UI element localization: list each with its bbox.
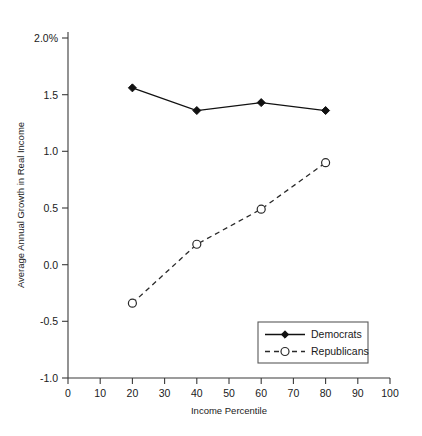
x-tick-label: 80 — [320, 387, 332, 399]
legend-marker-open-circle — [281, 348, 289, 356]
x-tick-label: 70 — [288, 387, 300, 399]
x-tick-label: 20 — [127, 387, 139, 399]
y-tick-label: -0.5 — [40, 315, 58, 327]
y-tick-label: 0.5 — [43, 202, 58, 214]
x-tick-label: 10 — [94, 387, 106, 399]
y-tick-label: -1.0 — [40, 372, 58, 384]
x-tick-label: 40 — [191, 387, 203, 399]
x-axis: 0 10 20 30 40 50 60 70 80 90 1 — [65, 378, 399, 416]
x-axis-ticks: 0 10 20 30 40 50 60 70 80 90 1 — [65, 378, 399, 399]
data-point — [128, 299, 136, 307]
y-axis: 2.0% 1.5 1.0 0.5 0.0 -0.5 -1.0 Average A… — [15, 32, 68, 384]
data-point — [128, 84, 136, 92]
series-line-republicans — [132, 163, 325, 304]
data-point — [257, 205, 265, 213]
series-republicans — [128, 159, 329, 308]
x-tick-label: 100 — [381, 387, 399, 399]
series-democrats — [128, 84, 329, 115]
data-point — [193, 240, 201, 248]
chart-legend: Democrats Republicans — [258, 322, 369, 363]
y-tick-label: 1.5 — [43, 89, 58, 101]
y-tick-label: 2.0% — [34, 32, 58, 44]
legend-label-democrats: Democrats — [311, 328, 362, 340]
data-point — [193, 107, 201, 115]
y-axis-title: Average Annual Growth in Real Income — [15, 122, 26, 288]
income-growth-line-chart: 2.0% 1.5 1.0 0.5 0.0 -0.5 -1.0 Average A… — [0, 0, 422, 436]
x-tick-label: 50 — [223, 387, 235, 399]
x-tick-label: 90 — [352, 387, 364, 399]
y-tick-label: 1.0 — [43, 145, 58, 157]
data-point — [322, 107, 330, 115]
y-axis-ticks: 2.0% 1.5 1.0 0.5 0.0 -0.5 -1.0 — [34, 32, 68, 384]
data-point — [257, 99, 265, 107]
chart-container: 2.0% 1.5 1.0 0.5 0.0 -0.5 -1.0 Average A… — [0, 0, 422, 436]
series-line-democrats — [132, 88, 325, 111]
series-layer — [128, 84, 329, 307]
y-tick-label: 0.0 — [43, 259, 58, 271]
data-point — [322, 159, 330, 167]
x-tick-label: 0 — [65, 387, 71, 399]
x-tick-label: 60 — [255, 387, 267, 399]
x-tick-label: 30 — [159, 387, 171, 399]
legend-label-republicans: Republicans — [311, 345, 369, 357]
x-axis-title: Income Percentile — [191, 405, 267, 416]
